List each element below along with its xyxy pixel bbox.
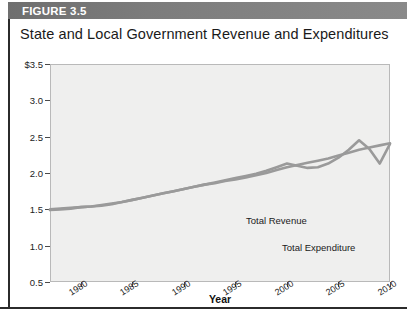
y-tick-label: $3.5 (25, 59, 44, 70)
y-tick-label: 2.0 (30, 168, 43, 179)
y-tick-mark (45, 282, 50, 283)
plot-region: $3.53.02.52.01.51.00.5 19801985199019952… (50, 64, 390, 282)
annotation-total-expenditure: Total Expenditure (282, 242, 355, 253)
y-tick-label: 1.0 (30, 240, 43, 251)
y-tick-label: 0.5 (30, 277, 43, 288)
y-tick-label: 2.5 (30, 131, 43, 142)
series-line-total-expenditure (50, 143, 390, 210)
figure-bottom-rule (0, 307, 407, 309)
chart-title: State and Local Government Revenue and E… (20, 26, 389, 42)
figure-header-bar: FIGURE 3.5 (8, 2, 407, 19)
annotation-total-revenue: Total Revenue (246, 215, 307, 226)
figure-number-label: FIGURE 3.5 (8, 5, 87, 17)
figure-container: FIGURE 3.5 State and Local Government Re… (0, 0, 407, 323)
y-tick-label: 3.0 (30, 95, 43, 106)
y-tick-label: 1.5 (30, 204, 43, 215)
x-axis-title: Year (50, 293, 390, 305)
figure-left-rule (8, 19, 10, 308)
series-line-total-revenue (50, 140, 390, 209)
